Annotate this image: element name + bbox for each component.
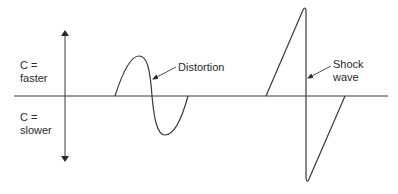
slower-label-line2: slower (20, 124, 52, 137)
shock-leader-arrow (308, 66, 331, 78)
faster-label-line1: C = (20, 59, 48, 72)
faster-label: C = faster (20, 59, 48, 85)
wave-distortion-diagram: C = faster C = slower Distortion Shock w… (0, 0, 398, 194)
slower-label: C = slower (20, 111, 52, 137)
shock-wave (266, 8, 345, 181)
slower-label-line1: C = (20, 111, 52, 124)
distortion-leader-arrow (153, 67, 176, 79)
shock-wave-label: Shock wave (333, 58, 364, 84)
faster-label-line2: faster (20, 72, 48, 85)
shock-wave-label-line1: Shock (333, 58, 364, 71)
shock-wave-label-line2: wave (333, 71, 364, 84)
distortion-label: Distortion (178, 61, 224, 74)
diagram-canvas (0, 0, 398, 194)
